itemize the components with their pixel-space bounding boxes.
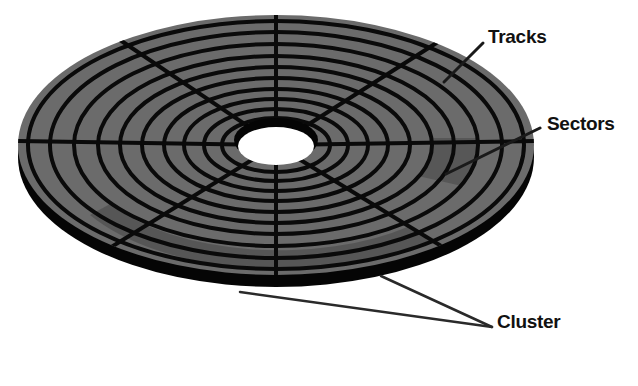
center-hole <box>234 118 318 165</box>
tracks-label: Tracks <box>488 26 546 48</box>
cluster-label: Cluster <box>497 311 560 333</box>
sectors-label: Sectors <box>547 113 615 135</box>
